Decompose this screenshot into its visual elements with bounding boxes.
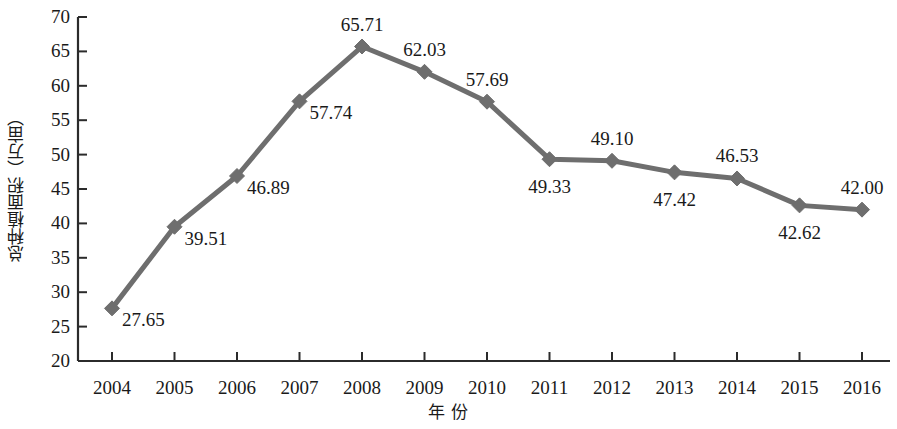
x-tick-label: 2005 xyxy=(144,378,206,397)
data-point-label: 62.03 xyxy=(396,40,454,59)
y-tick-label: 25 xyxy=(30,317,70,336)
data-point-marker xyxy=(855,202,870,217)
x-tick-label: 2016 xyxy=(831,378,893,397)
data-point-label: 49.33 xyxy=(521,177,579,196)
data-point-label: 27.65 xyxy=(122,310,180,329)
data-point-label: 57.69 xyxy=(458,70,516,89)
x-tick-label: 2015 xyxy=(769,378,831,397)
y-tick-label: 30 xyxy=(30,282,70,301)
data-point-label: 39.51 xyxy=(185,229,243,248)
x-tick-label: 2014 xyxy=(706,378,768,397)
x-tick-label: 2012 xyxy=(581,378,643,397)
data-point-label: 65.71 xyxy=(333,15,391,34)
x-tick-label: 2007 xyxy=(269,378,331,397)
data-point-label: 46.53 xyxy=(708,146,766,165)
y-tick-label: 55 xyxy=(30,110,70,129)
y-tick-label: 50 xyxy=(30,145,70,164)
y-tick-label: 20 xyxy=(30,351,70,370)
data-point-label: 57.74 xyxy=(310,103,368,122)
data-point-marker xyxy=(667,165,682,180)
data-point-label: 42.00 xyxy=(833,178,891,197)
y-tick-label: 40 xyxy=(30,213,70,232)
y-tick-label: 65 xyxy=(30,41,70,60)
x-tick-label: 2013 xyxy=(644,378,706,397)
data-point-marker xyxy=(730,171,745,186)
y-tick-label: 45 xyxy=(30,179,70,198)
x-tick-label: 2006 xyxy=(206,378,268,397)
x-tick-label: 2009 xyxy=(394,378,456,397)
data-point-label: 47.42 xyxy=(646,190,704,209)
y-tick-label: 35 xyxy=(30,248,70,267)
data-point-label: 42.62 xyxy=(771,223,829,242)
x-tick-label: 2004 xyxy=(81,378,143,397)
line-chart: 总种植面积（万亩） 年 份 2025303540455055606570 200… xyxy=(0,0,897,429)
x-tick-label: 2010 xyxy=(456,378,518,397)
data-point-marker xyxy=(792,198,807,213)
x-tick-label: 2011 xyxy=(519,378,581,397)
data-point-label: 49.10 xyxy=(583,129,641,148)
y-tick-label: 70 xyxy=(30,7,70,26)
data-point-label: 46.89 xyxy=(247,178,305,197)
y-tick-label: 60 xyxy=(30,76,70,95)
x-tick-label: 2008 xyxy=(331,378,393,397)
plot-area xyxy=(0,0,897,429)
data-point-marker xyxy=(605,153,620,168)
